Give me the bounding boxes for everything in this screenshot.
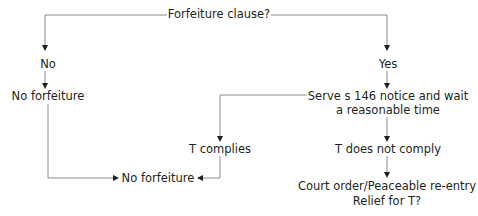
node-yes: Yes (378, 57, 399, 71)
connector-noforfeiture-to-bottom (48, 104, 113, 178)
node-serve-notice-line2: a reasonable time (335, 103, 441, 117)
node-forfeiture-clause: Forfeiture clause? (167, 7, 271, 21)
arrow-right-icon (113, 175, 119, 181)
node-court-order-line2: Relief for T? (352, 194, 422, 208)
connector-tcomplies-to-noforfeiture (203, 156, 220, 178)
node-no-forfeiture-bottom: No forfeiture (121, 171, 196, 185)
node-t-does-not-comply: T does not comply (334, 142, 442, 156)
connector-serve-to-tcomplies (220, 95, 310, 138)
arrow-left-icon (197, 175, 203, 181)
node-serve-notice-line1: Serve s 146 notice and wait (307, 89, 469, 103)
arrow-down-icon (384, 45, 390, 51)
node-no-forfeiture-left: No forfeiture (11, 89, 86, 103)
arrow-down-icon (384, 172, 390, 178)
node-t-complies: T complies (188, 142, 252, 156)
node-court-order-line1: Court order/Peaceable re-entry (297, 179, 477, 193)
node-no: No (39, 57, 57, 71)
arrow-down-icon (42, 45, 48, 51)
